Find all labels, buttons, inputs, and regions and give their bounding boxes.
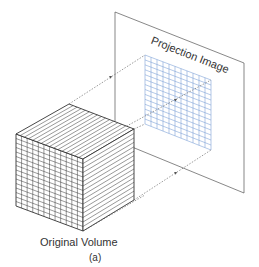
original-volume-label: Original Volume (40, 236, 118, 248)
arrow-head-icon (174, 172, 177, 175)
projection-diagram: Projection Image Original Volume (a) (0, 0, 259, 267)
figure-caption: (a) (89, 252, 101, 263)
arrow-head-icon (109, 76, 112, 79)
diagram-canvas (0, 0, 259, 267)
